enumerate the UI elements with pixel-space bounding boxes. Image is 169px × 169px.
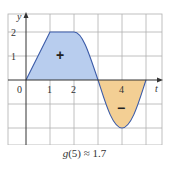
y-axis-label: y — [16, 11, 22, 22]
caption-text: (5) ≈ 1.7 — [68, 147, 106, 159]
y-axis-arrow-icon — [24, 12, 29, 18]
x-tick-4: 4 — [119, 84, 124, 95]
y-tick-2: 2 — [11, 27, 16, 38]
x-tick-2: 2 — [71, 84, 76, 95]
x-tick-1: 1 — [47, 84, 52, 95]
y-tick-1: 1 — [11, 51, 16, 62]
axes — [8, 16, 160, 145]
integral-area-chart: y t 0 1 2 4 1 2 + − — [0, 0, 169, 145]
negative-sign: − — [117, 100, 125, 116]
origin-label: 0 — [17, 84, 22, 95]
x-axis-label: t — [155, 83, 158, 94]
caption: g(5) ≈ 1.7 — [0, 147, 169, 159]
positive-sign: + — [56, 47, 64, 63]
